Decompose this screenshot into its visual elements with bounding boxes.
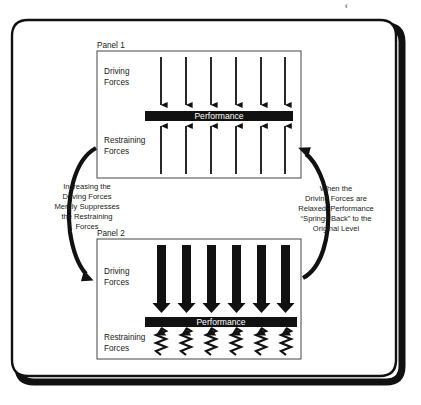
svg-text:Driving Forces: Driving Forces bbox=[63, 192, 112, 201]
svg-text:Forces: Forces bbox=[104, 344, 129, 353]
svg-text:Forces: Forces bbox=[104, 278, 129, 287]
panel-1-performance-bar: Performance bbox=[145, 111, 293, 121]
panel-2-performance-bar: Performance bbox=[145, 317, 297, 327]
svg-text:Restraining: Restraining bbox=[104, 333, 146, 342]
svg-text:Driving: Driving bbox=[104, 267, 130, 276]
force-field-diagram: Panel 1 Driving Forces Performance Restr… bbox=[0, 0, 421, 405]
panel-1: Panel 1 Driving Forces Performance Restr… bbox=[97, 41, 301, 178]
svg-text:Forces: Forces bbox=[75, 222, 98, 231]
svg-text:Forces: Forces bbox=[104, 147, 129, 156]
svg-text:the Restraining: the Restraining bbox=[61, 212, 112, 221]
performance-bar-label: Performance bbox=[196, 317, 245, 327]
panel-1-label: Panel 1 bbox=[97, 41, 125, 50]
svg-text:Merely Suppresses: Merely Suppresses bbox=[55, 202, 120, 211]
svg-text:Increasing the: Increasing the bbox=[63, 182, 111, 191]
panel-2-label: Panel 2 bbox=[97, 229, 125, 238]
svg-text:Original Level: Original Level bbox=[313, 224, 360, 233]
scan-artifact-mark bbox=[345, 4, 347, 8]
svg-text:When the: When the bbox=[320, 184, 353, 193]
svg-text:“Springs Back” to the: “Springs Back” to the bbox=[301, 214, 372, 223]
performance-bar-label: Performance bbox=[194, 111, 243, 121]
svg-text:Forces: Forces bbox=[104, 78, 129, 87]
svg-text:Relaxed, Performance: Relaxed, Performance bbox=[298, 204, 374, 213]
svg-text:Restraining: Restraining bbox=[104, 136, 146, 145]
svg-text:Driving Forces are: Driving Forces are bbox=[305, 194, 367, 203]
panel-2: Panel 2 Driving Forces Performance Restr… bbox=[97, 229, 301, 359]
svg-text:Driving: Driving bbox=[104, 67, 130, 76]
